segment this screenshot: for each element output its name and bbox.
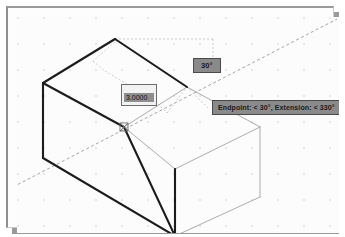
- cad-screenshot: 30° 3.0000 Endpoint: < 30°, Extension: <…: [0, 0, 345, 237]
- dynamic-distance-input[interactable]: 3.0000: [121, 84, 157, 106]
- object-snap-tooltip: Endpoint: < 30°, Extension: < 330°: [212, 100, 339, 115]
- drawing-viewport[interactable]: 30° 3.0000 Endpoint: < 30°, Extension: <…: [17, 17, 339, 233]
- grid-dots: [17, 17, 339, 233]
- window-title: AutoCAD Drawing Viewport: [0, 0, 1, 1]
- polar-angle-chip: 30°: [193, 58, 221, 73]
- drawing-canvas[interactable]: [17, 17, 339, 233]
- distance-input-value[interactable]: 3.0000: [124, 93, 154, 102]
- cad-window-frame: 30° 3.0000 Endpoint: < 30°, Extension: <…: [6, 6, 334, 228]
